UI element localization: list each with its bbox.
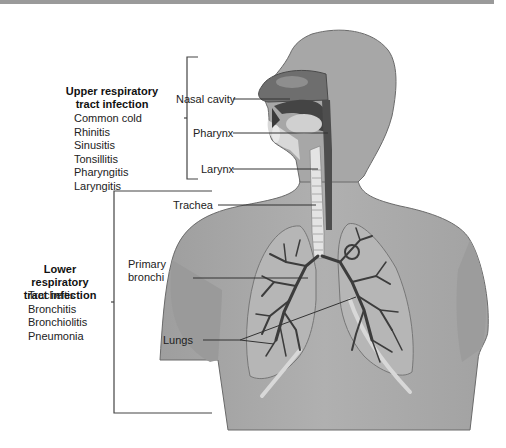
label-primary-bronchi: Primary bronchi (128, 258, 166, 284)
upper-group-title: Upper respiratory tract infection (62, 85, 162, 111)
upper-title-line1: Upper respiratory (62, 85, 162, 98)
label-trachea: Trachea (173, 199, 213, 212)
lower-infection-list: Tracheitis Bronchitis Bronchiolitis Pneu… (28, 289, 87, 343)
label-pharynx: Pharynx (193, 127, 233, 140)
list-item: Tonsillitis (74, 153, 142, 167)
list-item: Rhinitis (74, 126, 142, 140)
upper-bracket (187, 57, 198, 179)
list-item: Pneumonia (28, 330, 87, 344)
list-item: Laryngitis (74, 180, 142, 194)
list-item: Bronchiolitis (28, 316, 87, 330)
list-item: Common cold (74, 112, 142, 126)
upper-title-line2: tract infection (62, 98, 162, 111)
upper-infection-list: Common cold Rhinitis Sinusitis Tonsillit… (74, 112, 142, 193)
list-item: Tracheitis (28, 289, 87, 303)
list-item: Bronchitis (28, 303, 87, 317)
label-lungs: Lungs (163, 334, 193, 347)
list-item: Sinusitis (74, 139, 142, 153)
label-nasal-cavity: Nasal cavity (176, 93, 235, 106)
primary-bronchi-line1: Primary (128, 258, 166, 271)
primary-bronchi-line2: bronchi (128, 271, 166, 284)
respiratory-illustration (0, 0, 506, 448)
label-larynx: Larynx (201, 163, 234, 176)
lower-title-line1: Lower respiratory (14, 263, 106, 289)
list-item: Pharyngitis (74, 166, 142, 180)
